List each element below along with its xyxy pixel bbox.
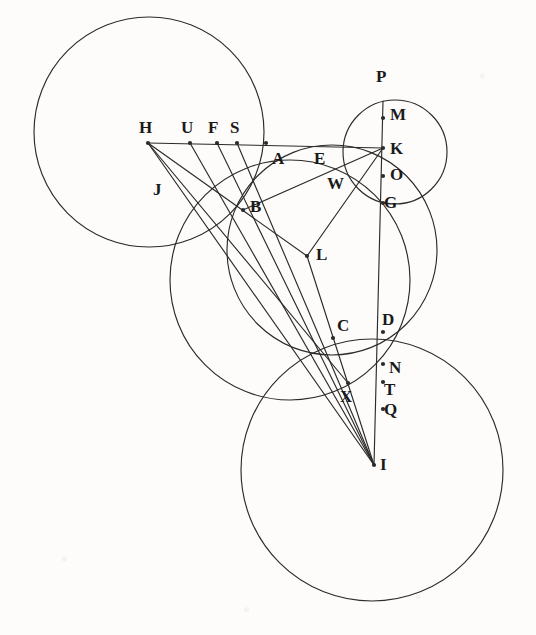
point-label-I: I xyxy=(380,456,387,473)
point-label-B: B xyxy=(250,198,261,215)
point-label-S: S xyxy=(230,119,239,136)
point-label-G: G xyxy=(384,194,397,211)
point-dot-L[interactable] xyxy=(305,254,309,258)
point-label-K: K xyxy=(390,140,403,157)
point-label-F: F xyxy=(208,119,218,136)
point-label-J: J xyxy=(153,181,162,198)
seg-F-I xyxy=(217,143,374,465)
point-dot-U[interactable] xyxy=(188,141,192,145)
point-label-E: E xyxy=(314,150,325,167)
point-label-P: P xyxy=(376,68,386,85)
point-label-U: U xyxy=(181,119,193,136)
seg-U-I xyxy=(190,143,374,465)
point-label-A: A xyxy=(272,150,284,167)
point-label-X: X xyxy=(340,388,352,405)
point-label-D: D xyxy=(382,311,394,328)
point-dot-S[interactable] xyxy=(235,141,239,145)
point-label-Q: Q xyxy=(384,401,397,418)
point-dot-D[interactable] xyxy=(381,330,385,334)
point-dot-A[interactable] xyxy=(264,141,268,145)
seg-K-B xyxy=(243,148,383,210)
point-label-N: N xyxy=(389,359,401,376)
point-label-C: C xyxy=(337,317,349,334)
point-dot-I[interactable] xyxy=(372,463,376,467)
point-dot-B[interactable] xyxy=(241,208,245,212)
point-dot-H[interactable] xyxy=(146,141,150,145)
seg-S-I xyxy=(237,143,374,465)
point-dot-O[interactable] xyxy=(381,174,385,178)
point-label-W: W xyxy=(327,175,344,192)
circle-bottom-large xyxy=(241,339,503,601)
point-label-L: L xyxy=(316,246,327,263)
point-label-M: M xyxy=(390,106,406,123)
point-label-H: H xyxy=(139,119,152,136)
point-dot-C[interactable] xyxy=(331,336,335,340)
point-dot-M[interactable] xyxy=(381,116,385,120)
point-label-T: T xyxy=(384,381,395,398)
geometry-figure: HUFSAEKPMOGWJBLDCNTQXI xyxy=(0,0,536,635)
circle-middle-large xyxy=(170,160,410,400)
point-dot-K[interactable] xyxy=(381,146,385,150)
point-label-O: O xyxy=(390,166,403,183)
point-dot-X[interactable] xyxy=(346,381,350,385)
seg-L-I xyxy=(307,256,374,465)
point-dot-N[interactable] xyxy=(381,362,385,366)
point-dot-F[interactable] xyxy=(215,141,219,145)
figure-canvas xyxy=(0,0,536,635)
